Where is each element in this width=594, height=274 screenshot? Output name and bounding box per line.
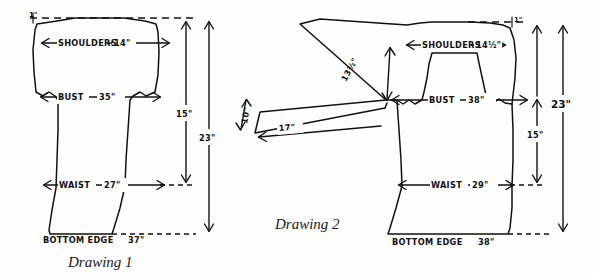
drawing2-shoulders-value: 14½" <box>476 40 501 50</box>
drawing1-height-inner-value: 15" <box>176 109 193 119</box>
drawing2-armhole-value: 13½" <box>339 56 360 83</box>
drawing2-bust-value: 38" <box>468 95 485 105</box>
drawing1-bottom-edge-label: BOTTOM EDGE <box>43 235 114 245</box>
drawing2-cuff-arrow-top <box>242 100 251 108</box>
drawing2-height-inner-value: 15" <box>527 130 544 140</box>
drawing2-height-outer-value: 23" <box>551 98 571 110</box>
drawing1-bust-value: 35" <box>99 92 116 102</box>
drawing2-bottom-edge-value: 38" <box>478 237 495 247</box>
drawing2-sleeve-underarm-join <box>385 103 387 108</box>
drawing1-shoulders-value: 14" <box>114 38 131 48</box>
drawing1-bottom-edge-value: 37" <box>128 235 145 245</box>
drawing1-waist-value: 27" <box>104 180 121 190</box>
drawing2-bust-label: BUST <box>429 95 455 105</box>
drawing1-waist-label: WAIST <box>59 180 90 190</box>
drawing2-waist-value: 29" <box>472 180 489 190</box>
drawing-sheet: SHOULDERS 14" BUST 35" WAIST 27" BOTTOM … <box>0 0 594 274</box>
schematic-svg: SHOULDERS 14" BUST 35" WAIST 27" BOTTOM … <box>0 0 594 274</box>
drawing1-caption: Drawing 1 <box>67 254 133 270</box>
drawing2-top-inch-note: 1" <box>514 16 523 24</box>
drawing1-bust-label: BUST <box>58 92 84 102</box>
drawing-1-group: SHOULDERS 14" BUST 35" WAIST 27" BOTTOM … <box>29 11 222 270</box>
drawing2-shoulders-label: SHOULDERS <box>422 40 481 50</box>
drawing-2-group: 1" 10" 17" 13½" <box>236 16 576 247</box>
drawing2-armhole-dimline <box>387 48 390 100</box>
drawing2-sleeve-underside <box>255 100 386 133</box>
drawing2-body-outline <box>300 19 516 104</box>
drawing1-height-outer-value: 23" <box>199 133 216 143</box>
drawing2-sleeve-value: 17" <box>278 122 295 133</box>
drawing1-body-outline <box>33 18 159 234</box>
drawing2-waist-label: WAIST <box>431 180 462 190</box>
drawing2-caption: Drawing 2 <box>274 216 340 232</box>
drawing2-cuff-value: 10" <box>239 106 252 124</box>
drawing1-top-inch-note: 1" <box>29 11 38 19</box>
drawing2-bottom-edge-label: BOTTOM EDGE <box>392 237 463 247</box>
drawing2-lower-body-outline <box>388 101 513 234</box>
drawing1-shoulders-label: SHOULDERS <box>58 38 117 48</box>
